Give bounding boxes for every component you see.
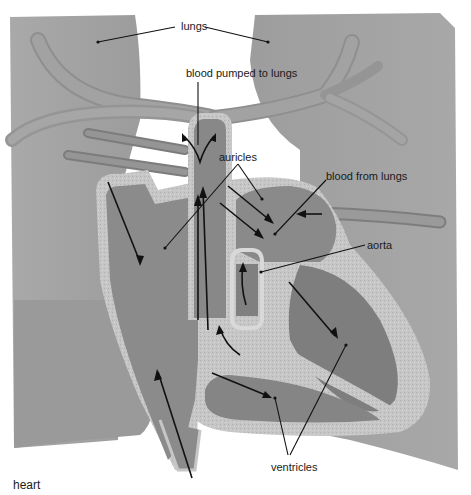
label-blood-pumped-to-lungs: blood pumped to lungs	[186, 67, 297, 80]
figure-caption: heart	[13, 478, 40, 492]
label-auricles: auricles	[219, 151, 257, 164]
label-lungs: lungs	[181, 20, 207, 33]
label-ventricles: ventricles	[271, 461, 317, 474]
label-blood-from-lungs: blood from lungs	[326, 170, 407, 183]
label-aorta: aorta	[367, 239, 392, 252]
heart-diagram: lungs blood pumped to lungs auricles blo…	[0, 0, 471, 495]
